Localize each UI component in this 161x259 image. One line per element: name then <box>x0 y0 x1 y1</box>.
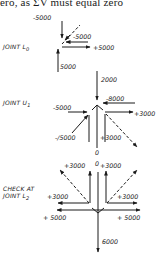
l0-horizontal-force: +5000 <box>93 44 114 51</box>
l2-bottom-left-force: + 5000 <box>43 214 66 221</box>
u1-top-right-force: -8000 <box>106 95 124 102</box>
l2-mid-left-force: +3000 <box>47 193 68 200</box>
l2-top-left-force: +3000 <box>64 162 85 169</box>
u1-bottom-vertical-force: 0 <box>95 149 99 156</box>
u1-right-vertical-force: +3000 <box>100 134 121 141</box>
u1-top-vertical-force: 2000 <box>101 76 117 83</box>
l2-mid-right-force: +3000 <box>117 193 138 200</box>
l2-top-center-force: 0 <box>95 160 99 167</box>
u1-right-horizontal-force: +3000 <box>134 110 155 117</box>
joint-l0-label: JOINT L0 <box>3 43 29 53</box>
l2-bottom-vertical-force: 6000 <box>102 238 118 245</box>
joint-l2-label: CHECK AT JOINT L2 <box>3 185 34 202</box>
u1-left-horizontal-force: -5000 <box>53 104 71 111</box>
u1-left-diagonal-force: -/5000 <box>55 134 75 141</box>
l2-top-right-force: +3000 <box>100 162 121 169</box>
joint-u1-label: JOINT U1 <box>3 99 31 109</box>
l0-diagonal-force: -5000 <box>73 33 91 40</box>
l0-top-vertical-force: -5000 <box>33 14 51 21</box>
l2-bottom-right-force: + 5000 <box>117 214 140 221</box>
l0-bottom-vertical-force: 5000 <box>60 63 76 70</box>
joint-l2-arrows <box>57 170 140 252</box>
